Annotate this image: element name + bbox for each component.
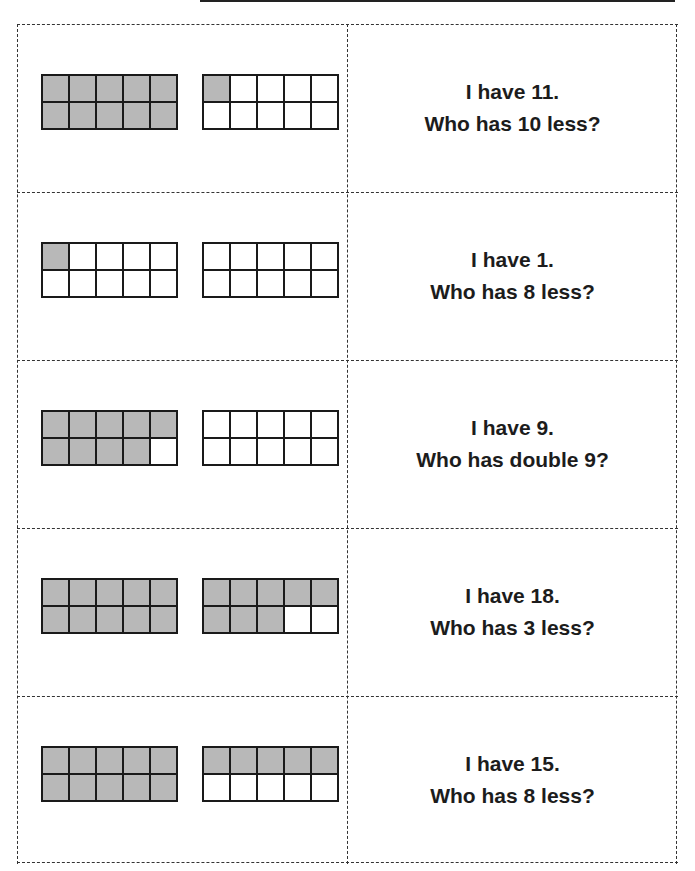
ten-frame-cell bbox=[204, 775, 229, 800]
ten-frame-cell bbox=[151, 580, 176, 605]
card-row: I have 18.Who has 3 less? bbox=[17, 528, 678, 696]
ten-frame-cell bbox=[151, 76, 176, 101]
card-line-question: Who has 3 less? bbox=[347, 612, 678, 644]
ten-frame-cell bbox=[97, 412, 122, 437]
ten-frame-cell bbox=[204, 271, 229, 296]
ten-frame-cell bbox=[312, 244, 337, 269]
ten-frame-cell bbox=[258, 103, 283, 128]
ten-frame-cell bbox=[124, 244, 149, 269]
ten-frame-cell bbox=[231, 607, 256, 632]
ten-frame-cell bbox=[231, 244, 256, 269]
ten-frame-cell bbox=[70, 439, 95, 464]
ten-frame-cell bbox=[43, 775, 68, 800]
ten-frame-cell bbox=[97, 775, 122, 800]
ten-frame-cell bbox=[151, 103, 176, 128]
card-row: I have 9.Who has double 9? bbox=[17, 360, 678, 528]
ten-frame-cell bbox=[204, 76, 229, 101]
ten-frame-cell bbox=[124, 775, 149, 800]
ten-frame-cell bbox=[151, 607, 176, 632]
ten-frame-cell bbox=[124, 412, 149, 437]
ten-frame-cell bbox=[312, 775, 337, 800]
ten-frame bbox=[202, 578, 339, 634]
ten-frame-cell bbox=[285, 607, 310, 632]
ten-frame-cell bbox=[151, 439, 176, 464]
ten-frame-cell bbox=[312, 580, 337, 605]
ten-frame-cell bbox=[204, 607, 229, 632]
ten-frame-cell bbox=[204, 103, 229, 128]
ten-frame-cell bbox=[312, 76, 337, 101]
ten-frame-cell bbox=[97, 439, 122, 464]
ten-frame-cell bbox=[312, 748, 337, 773]
ten-frame-cell bbox=[258, 775, 283, 800]
ten-frame-cell bbox=[43, 580, 68, 605]
card-line-have: I have 9. bbox=[347, 412, 678, 444]
ten-frame-cell bbox=[151, 775, 176, 800]
ten-frame-cell bbox=[258, 271, 283, 296]
ten-frame-cell bbox=[258, 439, 283, 464]
ten-frame-cell bbox=[231, 271, 256, 296]
card-row: I have 1.Who has 8 less? bbox=[17, 192, 678, 360]
ten-frame-cell bbox=[97, 103, 122, 128]
ten-frame-cell bbox=[70, 748, 95, 773]
ten-frame-cell bbox=[285, 748, 310, 773]
ten-frame-cell bbox=[124, 103, 149, 128]
card-line-have: I have 18. bbox=[347, 580, 678, 612]
ten-frame-cell bbox=[43, 76, 68, 101]
ten-frame-cell bbox=[312, 607, 337, 632]
ten-frames bbox=[41, 578, 339, 634]
ten-frame bbox=[202, 746, 339, 802]
ten-frame bbox=[202, 242, 339, 298]
ten-frame-cell bbox=[285, 775, 310, 800]
ten-frame-cell bbox=[151, 748, 176, 773]
ten-frame-cell bbox=[43, 607, 68, 632]
ten-frame-cell bbox=[258, 607, 283, 632]
ten-frame-cell bbox=[97, 748, 122, 773]
ten-frame-cell bbox=[285, 76, 310, 101]
ten-frame bbox=[41, 578, 178, 634]
ten-frame-cell bbox=[43, 271, 68, 296]
ten-frame-cell bbox=[312, 412, 337, 437]
ten-frame-cell bbox=[124, 76, 149, 101]
ten-frame-cell bbox=[97, 76, 122, 101]
card-line-question: Who has double 9? bbox=[347, 444, 678, 476]
card-line-question: Who has 8 less? bbox=[347, 276, 678, 308]
card-text: I have 18.Who has 3 less? bbox=[347, 580, 678, 644]
ten-frame-cell bbox=[285, 244, 310, 269]
ten-frame-cell bbox=[43, 748, 68, 773]
card-line-question: Who has 10 less? bbox=[347, 108, 678, 140]
ten-frame-cell bbox=[124, 271, 149, 296]
card-row: I have 15.Who has 8 less? bbox=[17, 696, 678, 864]
ten-frame bbox=[41, 746, 178, 802]
ten-frame-cell bbox=[312, 271, 337, 296]
ten-frame-cell bbox=[285, 580, 310, 605]
ten-frame-cell bbox=[97, 580, 122, 605]
ten-frame-cell bbox=[312, 103, 337, 128]
ten-frame-cell bbox=[204, 439, 229, 464]
ten-frame-cell bbox=[231, 412, 256, 437]
ten-frame-cell bbox=[204, 580, 229, 605]
ten-frame-cell bbox=[285, 271, 310, 296]
ten-frame-cell bbox=[43, 244, 68, 269]
card-line-question: Who has 8 less? bbox=[347, 780, 678, 812]
ten-frame-cell bbox=[231, 439, 256, 464]
top-rule bbox=[200, 0, 675, 2]
card-text: I have 15.Who has 8 less? bbox=[347, 748, 678, 812]
ten-frame-cell bbox=[285, 439, 310, 464]
card-line-have: I have 15. bbox=[347, 748, 678, 780]
ten-frames bbox=[41, 242, 339, 298]
ten-frame-cell bbox=[70, 76, 95, 101]
ten-frame-cell bbox=[204, 244, 229, 269]
ten-frame-cell bbox=[258, 748, 283, 773]
ten-frame bbox=[202, 410, 339, 466]
ten-frame-cell bbox=[70, 412, 95, 437]
ten-frame-cell bbox=[70, 775, 95, 800]
ten-frame bbox=[41, 410, 178, 466]
ten-frame-cell bbox=[124, 607, 149, 632]
ten-frame-cell bbox=[151, 412, 176, 437]
ten-frame-cell bbox=[151, 271, 176, 296]
ten-frame-cell bbox=[258, 580, 283, 605]
ten-frame-cell bbox=[258, 76, 283, 101]
card-row: I have 11.Who has 10 less? bbox=[17, 24, 678, 192]
card-line-have: I have 11. bbox=[347, 76, 678, 108]
ten-frame-cell bbox=[124, 580, 149, 605]
